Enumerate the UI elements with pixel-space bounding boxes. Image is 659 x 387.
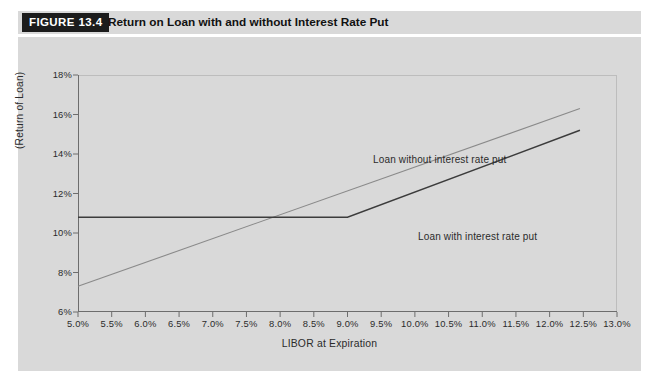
x-tick-label: 6.5% bbox=[168, 318, 190, 329]
y-tick-label: 18% bbox=[53, 69, 72, 80]
x-tick-label: 9.5% bbox=[370, 318, 392, 329]
series-lines bbox=[78, 109, 580, 287]
tick-marks bbox=[73, 75, 617, 317]
x-tick-label: 12.0% bbox=[536, 318, 564, 329]
y-tick-label: 6% bbox=[58, 306, 72, 317]
x-tick-label: 11.0% bbox=[469, 318, 496, 329]
x-tick-label: 7.0% bbox=[202, 318, 224, 329]
series-line-0 bbox=[78, 109, 580, 287]
y-tick-label: 10% bbox=[53, 227, 72, 238]
x-tick-label: 13.0% bbox=[603, 318, 631, 329]
x-tick-label: 5.5% bbox=[101, 318, 123, 329]
y-tick-label: 8% bbox=[58, 267, 72, 278]
figure-container: FIGURE 13.4 Return on Loan with and with… bbox=[0, 0, 659, 387]
x-tick-label: 7.5% bbox=[235, 318, 257, 329]
x-tick-label: 8.5% bbox=[303, 318, 325, 329]
x-tick-label: 12.5% bbox=[570, 318, 598, 329]
x-tick-label: 10.5% bbox=[435, 318, 463, 329]
x-axis-tick-labels: 5.0%5.5%6.0%6.5%7.0%7.5%8.0%8.5%9.0%9.5%… bbox=[18, 318, 641, 332]
figure-number-tag: FIGURE 13.4 bbox=[22, 13, 109, 32]
x-tick-label: 6.0% bbox=[134, 318, 156, 329]
x-tick-label: 9.0% bbox=[336, 318, 358, 329]
x-tick-label: 11.5% bbox=[502, 318, 529, 329]
series-line-1 bbox=[78, 130, 580, 217]
y-tick-label: 14% bbox=[53, 148, 72, 159]
page-title: Return on Loan with and without Interest… bbox=[108, 13, 389, 32]
x-tick-label: 10.0% bbox=[401, 318, 429, 329]
y-tick-label: 16% bbox=[53, 109, 72, 120]
y-axis-title: (Return of Loan) bbox=[14, 72, 25, 149]
y-tick-label: 12% bbox=[53, 188, 72, 199]
x-tick-label: 5.0% bbox=[67, 318, 89, 329]
x-axis-title: LIBOR at Expiration bbox=[18, 338, 641, 349]
chart-panel: 6%8%10%12%14%16%18% 5.0%5.5%6.0%6.5%7.0%… bbox=[18, 37, 641, 371]
x-tick-label: 8.0% bbox=[269, 318, 291, 329]
series-annotation-without-put: Loan without interest rate put bbox=[373, 154, 506, 165]
series-annotation-with-put: Loan with interest rate put bbox=[418, 231, 537, 242]
